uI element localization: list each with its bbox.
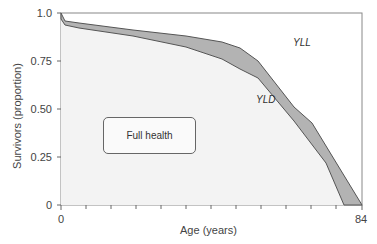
yld-annotation: YLD xyxy=(256,94,275,105)
yll-annotation: YLL xyxy=(293,37,311,48)
x-axis-ticks xyxy=(61,205,362,210)
x-tick-max: 84 xyxy=(355,213,367,225)
x-axis-label: Age (years) xyxy=(180,224,237,236)
full-health-label-box: Full health xyxy=(103,117,196,154)
y-axis-ticks xyxy=(57,13,61,205)
full-health-label: Full health xyxy=(126,130,172,141)
y-axis-label: Survivors (proportion) xyxy=(11,61,23,171)
y-tick-075: 0.75 xyxy=(22,55,52,67)
y-tick-1: 1.0 xyxy=(22,7,52,19)
x-tick-min: 0 xyxy=(58,213,64,225)
y-tick-050: 0.50 xyxy=(22,103,52,115)
y-tick-025: 0.25 xyxy=(22,151,52,163)
y-tick-0: 0 xyxy=(22,199,52,211)
